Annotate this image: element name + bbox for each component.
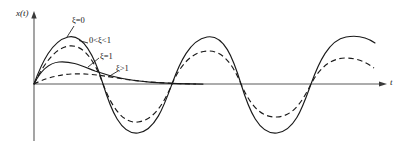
curve-overdamped — [34, 74, 196, 84]
x-axis-arrowhead — [379, 81, 387, 86]
plot-canvas — [0, 0, 402, 151]
curve-label-underdamped: 0<ξ<1 — [89, 36, 111, 45]
axes-group — [31, 11, 387, 141]
y-axis-arrowhead — [31, 11, 36, 19]
x-axis-label: t — [390, 78, 393, 87]
damping-response-figure: x(t) t ξ=0 0<ξ<1 ξ=1 ξ>1 — [0, 0, 402, 151]
curve-label-overdamped: ξ>1 — [116, 64, 129, 73]
curve-label-critically-damped: ξ=1 — [100, 52, 113, 61]
y-axis-label: x(t) — [16, 9, 29, 18]
leader-undamped — [67, 26, 74, 37]
curve-label-undamped: ξ=0 — [72, 16, 85, 25]
